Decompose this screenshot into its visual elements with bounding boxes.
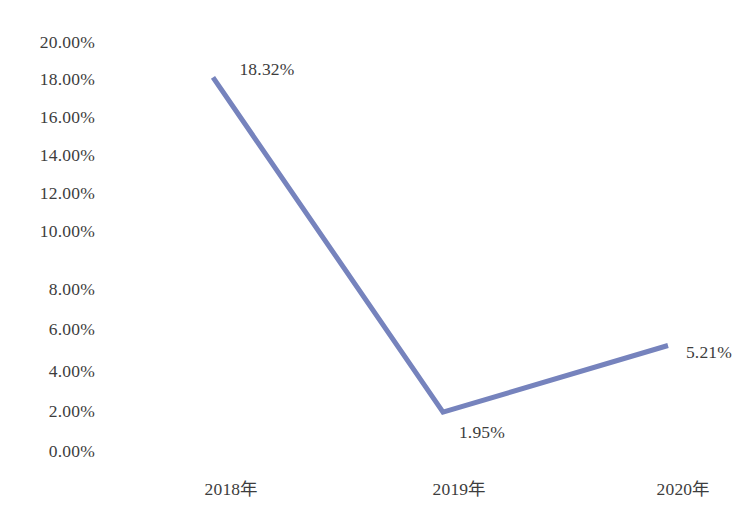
x-axis-tick-label: 2020年 <box>657 481 710 499</box>
x-axis: 2018年2019年2020年 <box>0 0 753 522</box>
data-point-label: 5.21% <box>686 344 732 362</box>
data-point-label: 18.32% <box>239 61 294 79</box>
data-point-label: 1.95% <box>459 424 505 442</box>
line-chart: 20.00%18.00%16.00%14.00%12.00%10.00%8.00… <box>0 0 753 522</box>
x-axis-tick-label: 2018年 <box>205 481 258 499</box>
x-axis-tick-label: 2019年 <box>433 481 486 499</box>
